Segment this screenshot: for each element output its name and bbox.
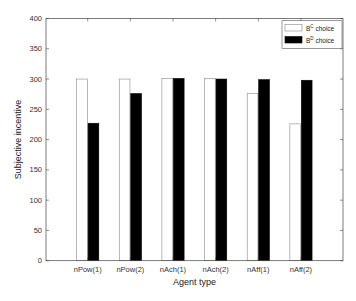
y-tick-label: 100 — [29, 196, 42, 205]
legend-swatch-bc — [285, 25, 302, 32]
x-tick-label: nAff(1) — [247, 265, 270, 274]
x-tick-label: nAch(1) — [160, 265, 187, 274]
bar-bc — [247, 94, 258, 261]
y-tick-label: 300 — [29, 75, 42, 84]
y-tick-label: 200 — [29, 135, 42, 144]
legend-label-bd: BD choice — [306, 36, 335, 44]
x-tick-label: nAff(2) — [290, 265, 313, 274]
y-tick-label: 250 — [29, 105, 42, 114]
x-tick-label: nPow(1) — [74, 265, 102, 274]
y-tick-label: 0 — [38, 256, 42, 265]
bar-chart: 050100150200250300350400 nPow(1)nPow(2)n… — [0, 0, 356, 301]
y-tick-label: 50 — [34, 226, 42, 235]
x-axis: nPow(1)nPow(2)nAch(1)nAch(2)nAff(1)nAff(… — [74, 19, 313, 274]
y-tick-label: 350 — [29, 44, 42, 53]
y-tick-label: 400 — [29, 14, 42, 23]
bars-group — [77, 78, 312, 260]
bar-bc — [205, 78, 216, 260]
bar-bd — [173, 78, 184, 260]
bar-bc — [77, 79, 88, 261]
y-tick-label: 150 — [29, 165, 42, 174]
bar-bc — [119, 79, 130, 261]
y-axis-label: Subjective incentive — [13, 100, 23, 180]
x-tick-label: nAch(2) — [203, 265, 230, 274]
legend-label-bc: BC choice — [306, 24, 335, 32]
bar-bd — [216, 79, 227, 261]
bar-bc — [290, 124, 301, 261]
bar-bd — [259, 80, 270, 261]
x-tick-label: nPow(2) — [116, 265, 144, 274]
legend-swatch-bd — [285, 37, 302, 44]
x-axis-label: Agent type — [173, 277, 216, 287]
bar-bd — [88, 123, 99, 260]
bar-bd — [301, 80, 312, 260]
bar-bd — [131, 94, 142, 261]
legend: BC choiceBD choice — [282, 21, 342, 49]
bar-bc — [162, 78, 173, 260]
